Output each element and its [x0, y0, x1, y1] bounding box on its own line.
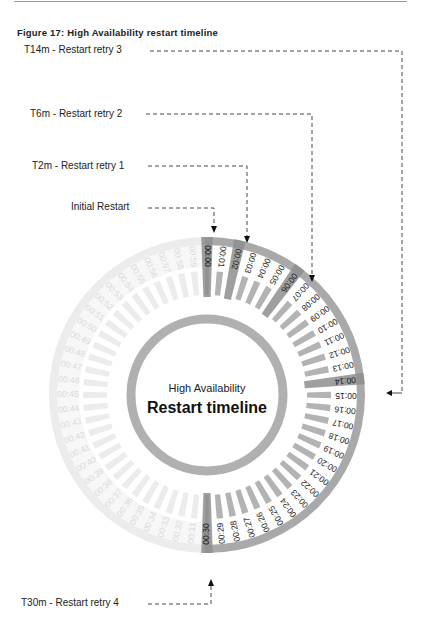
minute-label: 00:03 [243, 251, 259, 275]
minute-label: 00:13 [331, 360, 354, 374]
arrow-t30-icon [208, 579, 214, 586]
minute-tick [166, 276, 179, 301]
connector-t30 [148, 586, 211, 604]
minute-tick [83, 379, 107, 387]
connector-t14 [150, 51, 402, 393]
center-title: Restart timeline [147, 399, 267, 416]
minute-tick [88, 423, 113, 436]
minute-tick [306, 403, 330, 411]
minute-tick [178, 273, 189, 298]
minute-label: 00:02 [229, 248, 243, 271]
minute-label: 00:16 [334, 404, 356, 416]
minute-label: 00:18 [327, 431, 351, 447]
minute-tick [215, 494, 223, 518]
minute-tick [85, 413, 110, 424]
minute-label: 00:01 [216, 246, 228, 268]
arrow-initial-icon [211, 226, 217, 233]
minute-tick [225, 492, 236, 517]
minute-tick [166, 489, 179, 514]
minute-label: 00:29 [215, 522, 227, 544]
minute-label: 00:17 [331, 417, 354, 431]
minute-tick [301, 423, 326, 436]
minute-label: 00:30 [201, 523, 211, 545]
minute-tick [304, 413, 329, 424]
restart-timeline-diagram: 00:0000:0100:0200:0300:0400:0500:0600:07… [0, 0, 423, 629]
minute-tick [235, 489, 248, 514]
inner-ring [131, 319, 283, 471]
minute-label: 00:15 [335, 391, 357, 401]
minute-tick [178, 492, 189, 517]
minute-tick [88, 354, 113, 367]
minute-label: 00:45 [57, 389, 79, 399]
minute-label: 00:00 [203, 245, 213, 267]
minute-tick [191, 494, 199, 518]
connector-t2 [148, 166, 247, 236]
connector-initial [148, 208, 214, 226]
minute-label: 00:28 [228, 519, 242, 542]
minute-tick [215, 271, 223, 295]
minute-tick [304, 366, 329, 377]
arrow-t14-icon [386, 390, 392, 396]
minute-tick [83, 392, 107, 398]
minute-tick [235, 276, 248, 301]
minute-tick [85, 366, 110, 377]
minute-tick [83, 403, 107, 411]
minute-tick [307, 392, 331, 398]
center-subtitle: High Availability [169, 382, 246, 394]
minute-tick [301, 354, 326, 367]
minute-tick [191, 271, 199, 295]
